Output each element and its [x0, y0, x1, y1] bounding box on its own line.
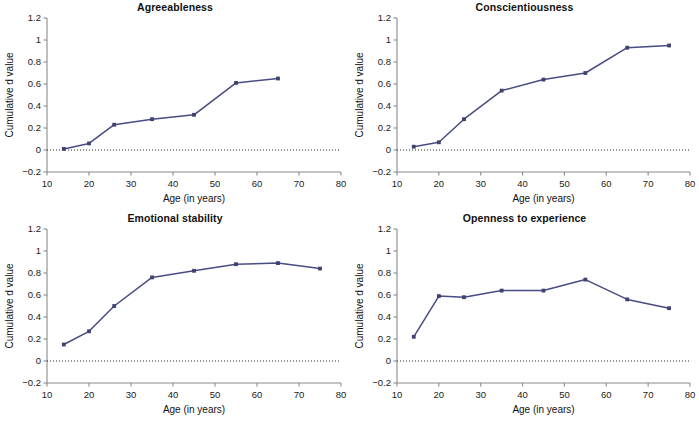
x-tick-label: 10 [42, 178, 53, 189]
y-axis-title: Cumulative d value [4, 263, 15, 348]
y-tick-label: 0.4 [378, 100, 391, 111]
y-tick-label: 0.8 [378, 267, 391, 278]
data-line [414, 46, 669, 147]
data-point-marker [276, 77, 280, 81]
x-tick-label: 30 [126, 389, 137, 400]
y-tick-label: −0.2 [372, 166, 391, 177]
x-tick-label: 10 [392, 178, 403, 189]
x-tick-label: 80 [685, 389, 696, 400]
data-point-marker [192, 269, 196, 273]
data-line [64, 263, 320, 344]
y-tick-label: 0 [36, 355, 41, 366]
data-point-marker [318, 267, 322, 271]
y-tick-label: 0.6 [28, 78, 41, 89]
data-point-marker [500, 89, 504, 93]
data-point-marker [150, 276, 154, 280]
data-line [414, 280, 669, 337]
y-tick-label: 0.4 [378, 311, 391, 322]
y-tick-label: 0.2 [28, 333, 41, 344]
data-point-marker [112, 123, 116, 127]
data-point-marker [112, 304, 116, 308]
x-tick-label: 40 [168, 389, 179, 400]
x-axis-title: Age (in years) [512, 404, 574, 415]
x-tick-label: 10 [392, 389, 403, 400]
x-tick-label: 40 [168, 178, 179, 189]
y-tick-label: 0.8 [28, 56, 41, 67]
y-tick-label: −0.2 [22, 166, 41, 177]
x-axis-title: Age (in years) [163, 193, 225, 204]
x-tick-label: 30 [126, 178, 137, 189]
panel-emotional-stability: Emotional stability −0.200.20.40.60.811.… [0, 211, 350, 422]
y-tick-label: 1 [36, 34, 41, 45]
x-tick-label: 50 [559, 178, 570, 189]
data-point-marker [625, 298, 629, 302]
x-tick-label: 60 [252, 178, 263, 189]
data-point-marker [234, 262, 238, 266]
data-point-marker [62, 343, 66, 347]
y-tick-label: 1.2 [378, 12, 391, 23]
data-point-marker [462, 117, 466, 121]
chart-svg: −0.200.20.40.60.811.21020304050607080Age… [0, 0, 350, 211]
data-point-marker [412, 145, 416, 149]
data-point-marker [437, 294, 441, 298]
x-tick-label: 20 [84, 178, 95, 189]
x-tick-label: 50 [559, 389, 570, 400]
panel-openness-to-experience: Openness to experience −0.200.20.40.60.8… [350, 211, 699, 422]
panel-agreeableness: Agreeableness −0.200.20.40.60.811.210203… [0, 0, 350, 211]
x-tick-label: 60 [601, 389, 612, 400]
x-tick-label: 70 [294, 389, 305, 400]
x-tick-label: 10 [42, 389, 53, 400]
chart-svg: −0.200.20.40.60.811.21020304050607080Age… [0, 211, 350, 422]
y-tick-label: 1.2 [378, 223, 391, 234]
x-axis-title: Age (in years) [512, 193, 574, 204]
x-tick-label: 80 [685, 178, 696, 189]
y-tick-label: 0 [386, 355, 391, 366]
data-point-marker [412, 335, 416, 339]
x-tick-label: 60 [601, 178, 612, 189]
x-tick-label: 70 [643, 389, 654, 400]
data-point-marker [150, 117, 154, 121]
y-tick-label: 0.8 [28, 267, 41, 278]
x-tick-label: 20 [84, 389, 95, 400]
y-tick-label: 0.6 [378, 289, 391, 300]
y-tick-label: 0.4 [28, 311, 41, 322]
y-tick-label: 0.6 [28, 289, 41, 300]
chart-svg: −0.200.20.40.60.811.21020304050607080Age… [350, 211, 699, 422]
data-point-marker [667, 306, 671, 310]
y-tick-label: 1.2 [28, 12, 41, 23]
data-point-marker [625, 46, 629, 50]
x-tick-label: 20 [434, 389, 445, 400]
y-tick-label: −0.2 [372, 377, 391, 388]
data-point-marker [234, 81, 238, 85]
x-tick-label: 30 [475, 178, 486, 189]
data-point-marker [276, 261, 280, 265]
panel-conscientiousness: Conscientiousness −0.200.20.40.60.811.21… [350, 0, 699, 211]
data-point-marker [437, 140, 441, 144]
x-tick-label: 80 [336, 178, 347, 189]
x-tick-label: 80 [336, 389, 347, 400]
data-point-marker [583, 71, 587, 75]
y-tick-label: 1.2 [28, 223, 41, 234]
x-tick-label: 40 [517, 389, 528, 400]
y-tick-label: 0.4 [28, 100, 41, 111]
data-point-marker [192, 113, 196, 117]
x-tick-label: 60 [252, 389, 263, 400]
y-tick-label: 0 [36, 144, 41, 155]
data-point-marker [62, 147, 66, 151]
data-point-marker [500, 289, 504, 293]
data-line [64, 79, 278, 149]
x-axis-title: Age (in years) [163, 404, 225, 415]
data-point-marker [542, 289, 546, 293]
data-point-marker [87, 142, 91, 146]
data-point-marker [87, 329, 91, 333]
y-tick-label: 0.8 [378, 56, 391, 67]
y-tick-label: 0.6 [378, 78, 391, 89]
y-axis-title: Cumulative d value [354, 52, 365, 137]
y-axis-title: Cumulative d value [354, 263, 365, 348]
y-tick-label: 0.2 [28, 122, 41, 133]
x-tick-label: 20 [434, 178, 445, 189]
data-point-marker [462, 295, 466, 299]
data-point-marker [667, 44, 671, 48]
y-tick-label: 1 [386, 34, 391, 45]
y-axis-title: Cumulative d value [4, 52, 15, 137]
